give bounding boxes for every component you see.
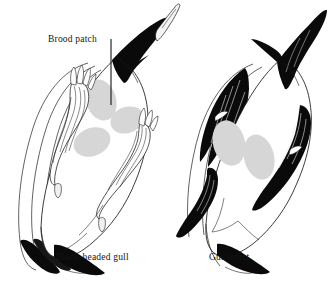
- brood-patch-annotation-label: Brood patch: [48, 34, 97, 44]
- species-label-black-headed-gull: Black-headed gull: [56, 252, 129, 262]
- brood-patch-figure: Brood patch Black-headed gull Guillemot: [0, 0, 328, 291]
- species-label-guillemot: Guillemot: [209, 252, 249, 262]
